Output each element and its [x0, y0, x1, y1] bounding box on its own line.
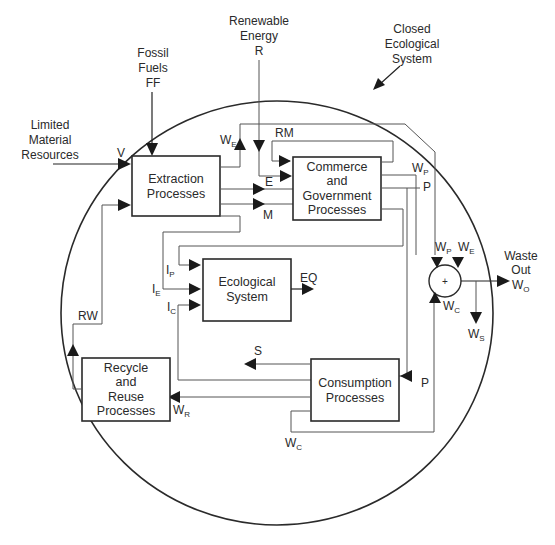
wp-label-node: WP [435, 240, 452, 256]
ic-label: IC [167, 300, 176, 316]
svg-text:Energy: Energy [240, 29, 278, 43]
svg-text:Commerce: Commerce [306, 160, 367, 174]
wc-label-node: WC [443, 299, 460, 315]
arrow-right-icon [189, 299, 201, 311]
svg-text:Renewable: Renewable [229, 14, 289, 28]
svg-text:System: System [392, 52, 432, 66]
s-label: S [254, 344, 262, 358]
wc-label-bottom: WC [285, 436, 302, 452]
extraction-processes-box: Extraction Processes [132, 156, 220, 216]
p-flow [392, 188, 407, 376]
summing-node: + [429, 265, 461, 297]
svg-text:Reuse: Reuse [108, 390, 144, 404]
ws-label: WS [468, 327, 485, 343]
arrow-right-icon [497, 275, 510, 287]
eq-label: EQ [300, 271, 317, 285]
svg-text:R: R [255, 44, 264, 58]
svg-text:Closed: Closed [393, 22, 430, 36]
boundary-pointer-line [380, 66, 400, 84]
arrow-left-icon [400, 370, 412, 382]
arrow-right-icon [279, 155, 291, 167]
arrow-down-icon [452, 257, 464, 268]
svg-text:Ecological: Ecological [385, 37, 440, 51]
ecological-system-box: Ecological System [203, 259, 291, 321]
arrow-right-icon [253, 183, 265, 195]
wr-label: WR [173, 403, 190, 419]
arrow-right-icon [118, 199, 131, 211]
svg-text:and: and [116, 375, 137, 389]
m-label: M [263, 208, 273, 222]
svg-text:Processes: Processes [326, 391, 384, 405]
fossil-fuels-label: Fossil Fuels FF [137, 46, 168, 90]
boundary-pointer-arrow-icon [373, 78, 385, 90]
e-label: E [265, 175, 273, 189]
svg-text:Processes: Processes [147, 187, 205, 201]
svg-text:Government: Government [303, 189, 372, 203]
svg-text:Resources: Resources [21, 148, 78, 162]
svg-text:Ecological: Ecological [219, 275, 276, 289]
svg-text:+: + [442, 276, 448, 287]
arrow-down-icon [253, 140, 265, 152]
commerce-government-box: Commerce and Government Processes [293, 157, 381, 220]
wp-label-top: WP [412, 161, 429, 177]
svg-text:FF: FF [146, 76, 161, 90]
svg-text:Material: Material [29, 133, 72, 147]
renewable-energy-label: Renewable Energy R [229, 14, 289, 58]
svg-text:Consumption: Consumption [318, 376, 392, 390]
arrow-down-icon [146, 143, 158, 156]
p-label-bottom: P [421, 376, 429, 390]
svg-text:and: and [327, 174, 348, 188]
closed-system-label: Closed Ecological System [385, 22, 440, 66]
svg-text:System: System [226, 290, 268, 304]
v-label: V [117, 146, 125, 160]
svg-text:Processes: Processes [97, 404, 155, 418]
rm-label: RM [275, 126, 294, 140]
arrow-down-icon [470, 312, 482, 324]
svg-text:Fossil: Fossil [137, 46, 168, 60]
svg-text:Processes: Processes [308, 203, 366, 217]
consumption-processes-box: Consumption Processes [311, 359, 399, 421]
svg-text:Limited: Limited [31, 118, 70, 132]
svg-text:Extraction: Extraction [148, 172, 204, 186]
arrow-right-icon [189, 283, 201, 295]
ecological-system-diagram: Closed Ecological System Fossil Fuels FF… [0, 0, 555, 545]
svg-text:Waste: Waste [504, 249, 538, 263]
ip-label: IP [166, 263, 175, 279]
arrow-left-icon [244, 358, 256, 370]
arrow-up-icon [67, 344, 79, 356]
arrow-right-icon [280, 170, 292, 182]
svg-text:Recycle: Recycle [104, 361, 149, 375]
arrow-right-icon [189, 259, 201, 271]
p-label-top: P [423, 180, 431, 194]
wp-flow [381, 175, 416, 255]
rw-label: RW [78, 309, 98, 323]
recycle-reuse-box: Recycle and Reuse Processes [82, 358, 170, 421]
limited-material-label: Limited Material Resources [21, 118, 78, 162]
svg-text:Out: Out [511, 263, 531, 277]
we-label: WE [220, 133, 237, 149]
wo-label: WO [512, 278, 530, 294]
ie-label: IE [152, 282, 161, 298]
waste-out-label: Waste Out [504, 249, 538, 277]
svg-text:Fuels: Fuels [138, 61, 167, 75]
we-label-node: WE [458, 240, 475, 256]
